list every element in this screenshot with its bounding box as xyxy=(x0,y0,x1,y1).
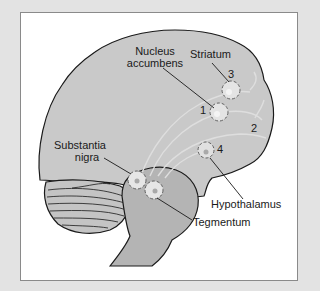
pathway-number-3: 3 xyxy=(228,68,234,80)
striatum-circle xyxy=(222,81,240,99)
hypothalamus-circle xyxy=(198,142,214,158)
label-tegmentum: Tegmentum xyxy=(193,216,250,228)
label-nucleus-accumbens-line1: Nucleus xyxy=(120,45,190,57)
label-nucleus-accumbens: Nucleus accumbens xyxy=(120,45,190,69)
label-substantia-nigra-line1: Substantia xyxy=(45,139,115,151)
pathway-number-4: 4 xyxy=(217,143,223,155)
label-nucleus-accumbens-line2: accumbens xyxy=(120,57,190,69)
label-hypothalamus: Hypothalamus xyxy=(211,198,281,210)
label-substantia-nigra-line2: nigra xyxy=(45,151,115,163)
pathway-number-1: 1 xyxy=(200,104,206,116)
cerebellum xyxy=(45,180,131,233)
label-substantia-nigra: Substantia nigra xyxy=(45,139,115,163)
label-striatum: Striatum xyxy=(190,48,231,60)
tegmentum-circle xyxy=(145,181,163,199)
pathway-number-2: 2 xyxy=(251,122,257,134)
nucleus-accumbens-circle xyxy=(210,103,228,121)
